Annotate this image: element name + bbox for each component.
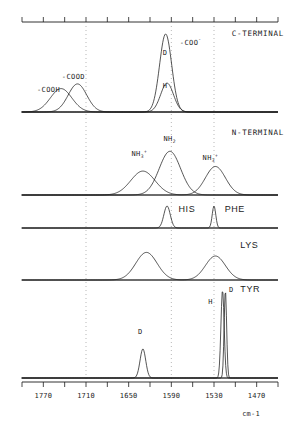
coo-h-curve [22,83,278,112]
axis-tick-label-1710: 1710 [77,392,95,400]
tyr-d-sharp [22,293,278,378]
nh3-plus-right-label: NH3+ [203,153,219,163]
nh3-plus-left-curve [22,171,278,195]
coo-h-peak-label: H [163,82,168,90]
spectra-svg-canvas: C-TERMINAL-COOH-COOD-COO-DHN-TERMINALNH3… [0,0,297,431]
panel-title-c-terminal: C-TERMINAL [232,29,284,38]
ir-spectra-figure: C-TERMINAL-COOH-COOD-COO-DHN-TERMINALNH3… [0,0,297,431]
panel-title-his: HIS [178,204,195,214]
axis-tick-label-1590: 1590 [162,392,180,400]
panel-title-lys: LYS [240,240,258,250]
axis-tick-label-1470: 1470 [248,392,266,400]
panel-title-n-terminal: N-TERMINAL [232,128,284,137]
cooh-curve [22,89,278,112]
cood-label: -COOD [62,73,85,81]
axis-tick-label-1530: 1530 [205,392,223,400]
tyr-d-label-lower: D [138,328,143,336]
axis-tick-label-1650: 1650 [120,392,138,400]
cood-curve [22,84,278,112]
nh3-plus-left-label: NH3+ [132,149,148,159]
tyr-h-label-upper: H [208,298,213,306]
nh2-curve [22,151,278,195]
axis-tick-label-1770: 1770 [34,392,52,400]
lys-peak-2 [22,256,278,280]
lys-peak-1 [22,252,278,280]
coo-d-peak-label: D [163,49,168,57]
panel-title-phe: PHE [225,204,245,214]
coo-d-curve [22,34,278,112]
panel-title-tyr: TYR [240,284,260,294]
nh2-label: NH2 [164,135,176,144]
cooh-label: -COOH [37,86,60,94]
nh3-plus-right-curve [22,166,278,195]
axis-units-label: cm-1 [242,410,260,418]
coo-minus-label: -COO- [180,37,202,48]
tyr-d-label-upper: D [229,286,234,294]
tyr-h-sharp [22,292,278,378]
tyr-d-band [22,349,278,378]
